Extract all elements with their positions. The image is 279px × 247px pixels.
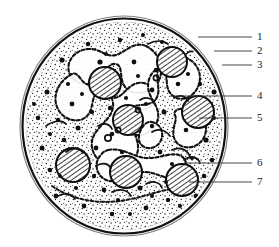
cell-diagram-figure: [0, 0, 279, 247]
label-number-4: 4: [257, 90, 263, 101]
label-number-3: 3: [257, 59, 263, 70]
label-number-6: 6: [257, 157, 263, 168]
label-number-7: 7: [257, 176, 263, 187]
hatched-granule: [182, 96, 214, 128]
label-number-2: 2: [257, 45, 263, 56]
hatched-granule: [113, 105, 143, 135]
hatched-granule: [166, 164, 198, 196]
hatched-granule: [89, 67, 121, 99]
label-number-1: 1: [257, 31, 263, 42]
hatched-granule: [157, 47, 187, 77]
label-number-5: 5: [257, 112, 263, 123]
hatched-granule: [110, 156, 142, 188]
